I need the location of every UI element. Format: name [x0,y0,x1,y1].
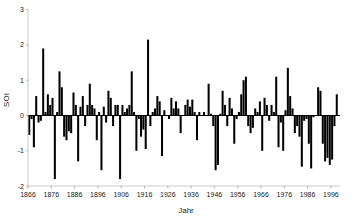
bar [117,105,119,116]
y-tick-label: 1 [20,77,24,84]
bar [126,108,128,115]
bar [79,107,81,116]
x-axis-ticks: 1866187618861896190619161926193619461956… [20,186,339,198]
bar [131,71,133,115]
y-tick-label: -1 [18,147,24,154]
bar [135,116,137,151]
bar [112,116,114,127]
y-tick-label: -2 [18,183,24,190]
bar [308,116,310,144]
bar [89,84,91,116]
bar [163,110,165,115]
bar [208,84,210,116]
bar [254,108,256,115]
bar [93,108,95,115]
bar [114,105,116,116]
bar [264,98,266,116]
bar [175,101,177,115]
bar [196,116,198,141]
bar [217,116,219,165]
bar [177,108,179,115]
bar [173,108,175,115]
bar [170,98,172,116]
bar [240,94,242,115]
bar [329,116,331,165]
x-tick-label: 1976 [277,191,293,198]
bar [278,116,280,148]
bar [319,91,321,116]
x-tick-label: 1866 [20,191,36,198]
bar [291,108,293,115]
bar [268,116,270,121]
bar [189,107,191,116]
bar [156,96,158,115]
bar [128,105,130,116]
y-tick-label: 2 [20,41,24,48]
bar [35,96,37,115]
bar [222,91,224,116]
bar [285,110,287,115]
bar [271,105,273,116]
bar [287,68,289,116]
bar [86,105,88,116]
x-tick-label: 1986 [300,191,316,198]
bar [247,116,249,127]
bar [322,116,324,144]
x-tick-label: 1946 [207,191,223,198]
bar-series [28,40,338,179]
bar [245,77,247,116]
y-tick-label: 3 [20,6,24,13]
y-axis-title: SOI [2,93,11,107]
bar [331,116,333,160]
bar [149,116,151,127]
x-tick-label: 1886 [67,191,83,198]
bar [33,116,35,148]
y-axis-ticks: -2-10123 [18,6,28,190]
x-tick-label: 1876 [44,191,60,198]
bar [75,105,77,116]
x-tick-label: 1956 [230,191,246,198]
bar [212,116,214,127]
bar [105,116,107,123]
bar [28,116,30,135]
x-tick-label: 1926 [160,191,176,198]
x-tick-label: 1996 [323,191,339,198]
x-tick-label: 1936 [183,191,199,198]
x-axis-title: Jahr [178,206,194,215]
bar [119,116,121,180]
bar [224,105,226,116]
bar [100,116,102,171]
bar [63,116,65,137]
bar [243,80,245,115]
bar [324,116,326,162]
bar [326,116,328,158]
bar [52,98,54,116]
bar [259,101,261,115]
bar [47,94,49,115]
bar [298,116,300,137]
bar [187,100,189,116]
bar [42,48,44,115]
bar [317,87,319,115]
bar [233,116,235,144]
bar [110,98,112,116]
bar [40,116,42,121]
x-tick-label: 1916 [137,191,153,198]
bar [142,116,144,130]
bar [96,116,98,141]
bar [147,40,149,116]
bar [310,116,312,169]
bar [294,116,296,134]
bar [231,108,233,115]
bar [77,116,79,162]
bar [180,116,182,134]
bar [68,116,70,132]
bar [140,116,142,137]
bar [121,105,123,116]
bar [91,105,93,116]
x-tick-label: 1906 [113,191,129,198]
bar [266,105,268,116]
bar [84,116,86,127]
bar [107,91,109,116]
bar [215,116,217,171]
